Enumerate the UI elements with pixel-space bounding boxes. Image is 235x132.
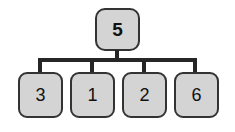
tree-node-child-2[interactable]: 1 bbox=[70, 72, 115, 118]
edge-drop-child-4 bbox=[193, 58, 197, 73]
tree-node-child-4[interactable]: 6 bbox=[174, 72, 219, 118]
tree-diagram: 5 3 1 2 6 bbox=[0, 0, 235, 132]
edge-bus-bar bbox=[38, 58, 197, 62]
edge-drop-child-3 bbox=[142, 58, 146, 73]
tree-node-root[interactable]: 5 bbox=[95, 8, 140, 51]
edge-drop-child-2 bbox=[90, 58, 94, 73]
tree-node-child-3-label: 2 bbox=[139, 86, 149, 104]
tree-node-root-label: 5 bbox=[112, 20, 123, 39]
tree-node-child-1[interactable]: 3 bbox=[18, 72, 63, 118]
tree-node-child-1-label: 3 bbox=[35, 86, 45, 104]
edge-drop-child-1 bbox=[38, 58, 42, 73]
tree-node-child-4-label: 6 bbox=[191, 86, 201, 104]
tree-node-child-3[interactable]: 2 bbox=[122, 72, 167, 118]
tree-node-child-2-label: 1 bbox=[87, 86, 97, 104]
